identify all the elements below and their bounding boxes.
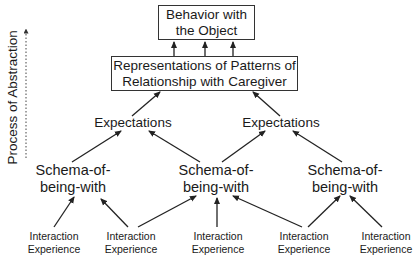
- interaction-5-line1: Interaction: [358, 230, 414, 243]
- interaction-2-line2: Experience: [103, 243, 159, 256]
- interaction-3-line2: Experience: [190, 243, 246, 256]
- schema-left-line1: Schema-of-: [33, 162, 113, 179]
- behavior-with-object-box: Behavior with the Object: [158, 5, 255, 40]
- interaction-3: Interaction Experience: [190, 230, 246, 255]
- interaction-5: Interaction Experience: [358, 230, 414, 255]
- interaction-4-line1: Interaction: [276, 230, 332, 243]
- schema-middle: Schema-of- being-with: [176, 162, 256, 196]
- representations-line1: Representations of Patterns of: [112, 58, 297, 74]
- interaction-4: Interaction Experience: [276, 230, 332, 255]
- expectations-left: Expectations: [93, 115, 173, 130]
- interaction-1-line2: Experience: [26, 243, 82, 256]
- behavior-line2: the Object: [159, 23, 254, 39]
- schema-middle-line1: Schema-of-: [176, 162, 256, 179]
- representations-box: Representations of Patterns of Relations…: [111, 56, 298, 91]
- expectations-right: Expectations: [241, 115, 321, 130]
- interaction-1-line1: Interaction: [26, 230, 82, 243]
- behavior-line1: Behavior with: [159, 7, 254, 23]
- schema-right-line2: being-with: [305, 179, 385, 196]
- process-of-abstraction-label: Process of Abstraction: [5, 47, 20, 165]
- interaction-3-line1: Interaction: [190, 230, 246, 243]
- schema-left: Schema-of- being-with: [33, 162, 113, 196]
- schema-middle-line2: being-with: [176, 179, 256, 196]
- schema-right-line1: Schema-of-: [305, 162, 385, 179]
- interaction-4-line2: Experience: [276, 243, 332, 256]
- representations-line2: Relationship with Caregiver: [112, 74, 297, 90]
- interaction-5-line2: Experience: [358, 243, 414, 256]
- interaction-1: Interaction Experience: [26, 230, 82, 255]
- schema-right: Schema-of- being-with: [305, 162, 385, 196]
- interaction-2: Interaction Experience: [103, 230, 159, 255]
- schema-left-line2: being-with: [33, 179, 113, 196]
- interaction-2-line1: Interaction: [103, 230, 159, 243]
